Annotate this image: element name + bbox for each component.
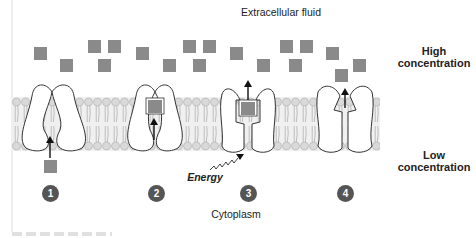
solute-square bbox=[98, 59, 111, 72]
bound-solute-3 bbox=[241, 102, 255, 115]
solute-square bbox=[34, 47, 47, 60]
solute-square bbox=[335, 69, 348, 82]
solute-square bbox=[230, 47, 243, 60]
energy-label: Energy bbox=[180, 171, 230, 183]
solute-square bbox=[193, 59, 206, 72]
solute-square bbox=[136, 47, 149, 60]
low-concentration-label: Low concentration bbox=[392, 149, 476, 173]
solute-square bbox=[183, 40, 196, 53]
solute-square bbox=[163, 59, 176, 72]
solute-square bbox=[60, 59, 73, 72]
solute-square bbox=[88, 40, 101, 53]
membrane-transport-diagram bbox=[0, 0, 476, 238]
solute-square bbox=[289, 59, 302, 72]
solute-square bbox=[300, 40, 313, 53]
solute-square bbox=[203, 40, 216, 53]
solute-square bbox=[280, 40, 293, 53]
extracellular-solutes bbox=[34, 40, 366, 82]
solute-entering bbox=[44, 160, 57, 173]
cytoplasm-label: Cytoplasm bbox=[196, 208, 276, 220]
high-concentration-label: High concentration bbox=[392, 45, 476, 69]
figure-caption-fragment bbox=[12, 232, 112, 236]
step-badge-4: 4 bbox=[337, 185, 354, 202]
solute-square bbox=[326, 47, 339, 60]
bound-solute-2 bbox=[148, 100, 162, 113]
step-badge-2: 2 bbox=[148, 185, 165, 202]
solute-square bbox=[353, 59, 366, 72]
step-badge-3: 3 bbox=[240, 185, 257, 202]
extracellular-fluid-label: Extracellular fluid bbox=[226, 6, 336, 18]
energy-zigzag-icon bbox=[210, 154, 244, 170]
solute-square bbox=[108, 40, 121, 53]
solute-square bbox=[257, 59, 270, 72]
step-badge-1: 1 bbox=[42, 185, 59, 202]
